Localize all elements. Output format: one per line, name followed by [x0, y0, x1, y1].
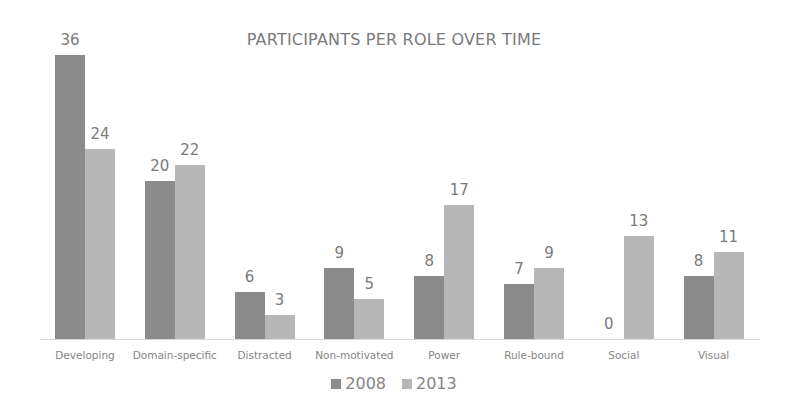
bar-2013-rule-bound [534, 268, 564, 339]
legend-swatch-icon [331, 379, 341, 389]
category-label: Social [574, 349, 674, 361]
data-label: 20 [140, 157, 180, 175]
data-label: 8 [679, 252, 719, 270]
bar-2008-power [414, 276, 444, 339]
data-label: 7 [499, 260, 539, 278]
category-label: Distracted [215, 349, 315, 361]
legend-item-2008: 2008 [331, 374, 386, 393]
bar-2013-social [624, 236, 654, 339]
plot-area: 3624Developing2022Domain-specific63Distr… [0, 0, 788, 410]
bar-2008-developing [55, 55, 85, 339]
bar-2008-domain-specific [145, 181, 175, 339]
category-label: Developing [35, 349, 135, 361]
data-label: 9 [529, 244, 569, 262]
bar-2008-rule-bound [504, 284, 534, 339]
data-label: 17 [439, 181, 479, 199]
data-label: 5 [349, 275, 389, 293]
data-label: 6 [230, 268, 270, 286]
bar-2013-developing [85, 149, 115, 339]
x-axis-line [40, 339, 760, 340]
data-label: 9 [319, 244, 359, 262]
bar-2013-power [444, 205, 474, 339]
data-label: 24 [80, 125, 120, 143]
data-label: 13 [619, 212, 659, 230]
category-label: Power [394, 349, 494, 361]
bar-2013-non-motivated [354, 299, 384, 339]
category-label: Visual [664, 349, 764, 361]
legend-item-2013: 2013 [402, 374, 457, 393]
legend-label: 2008 [345, 374, 386, 393]
category-label: Rule-bound [484, 349, 584, 361]
category-label: Domain-specific [125, 349, 225, 361]
legend-swatch-icon [402, 379, 412, 389]
bar-2013-distracted [265, 315, 295, 339]
category-label: Non-motivated [304, 349, 404, 361]
data-label: 11 [709, 228, 749, 246]
data-label: 8 [409, 252, 449, 270]
legend-label: 2013 [416, 374, 457, 393]
legend: 20082013 [0, 374, 788, 393]
data-label: 36 [50, 31, 90, 49]
data-label: 0 [589, 315, 629, 333]
data-label: 22 [170, 141, 210, 159]
bar-2013-domain-specific [175, 165, 205, 339]
data-label: 3 [260, 291, 300, 309]
bar-2008-visual [684, 276, 714, 339]
bar-2013-visual [714, 252, 744, 339]
